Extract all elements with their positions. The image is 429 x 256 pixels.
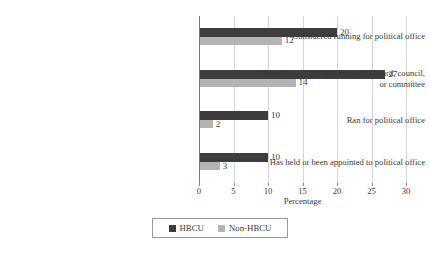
legend-label: Non-HBCU (229, 223, 272, 233)
legend-label: HBCU (180, 223, 204, 233)
legend-swatch-icon (169, 225, 176, 232)
x-tick-label: 5 (231, 186, 235, 196)
category-label: Has held or been appointed to political … (235, 157, 429, 168)
x-tick-label: 25 (367, 186, 376, 196)
bar-chart: 20122714102103 Considered running for po… (0, 0, 429, 256)
category-label-line: Has held or been appointed to political … (235, 157, 425, 168)
category-label-line: Served on a local governmental board, co… (235, 68, 425, 79)
x-tick-label: 10 (264, 186, 273, 196)
category-label: Ran for political office (235, 115, 429, 126)
x-tick-label: 0 (197, 186, 201, 196)
bar-non-hbcu (199, 120, 213, 128)
bar-value-label: 3 (223, 162, 228, 171)
category-label-line: Considered running for political office (235, 31, 425, 42)
category-label-line: or committee (235, 79, 425, 90)
x-axis-title: Percentage (199, 196, 406, 206)
x-tick-label: 30 (402, 186, 411, 196)
bar-value-label: 2 (216, 120, 221, 129)
legend-item-hbcu[interactable]: HBCU (169, 223, 204, 233)
x-tick-label: 20 (333, 186, 342, 196)
bar-non-hbcu (199, 162, 220, 170)
legend-item-non-hbcu[interactable]: Non-HBCU (218, 223, 272, 233)
legend-swatch-icon (218, 225, 225, 232)
chart-legend: HBCUNon-HBCU (152, 218, 288, 238)
category-label: Served on a local governmental board, co… (235, 68, 429, 90)
category-label: Considered running for political office (235, 31, 429, 42)
x-axis-ticks: 051015202530 (199, 183, 406, 195)
x-tick-label: 15 (298, 186, 307, 196)
category-label-line: Ran for political office (235, 115, 425, 126)
y-axis-line (199, 16, 200, 183)
